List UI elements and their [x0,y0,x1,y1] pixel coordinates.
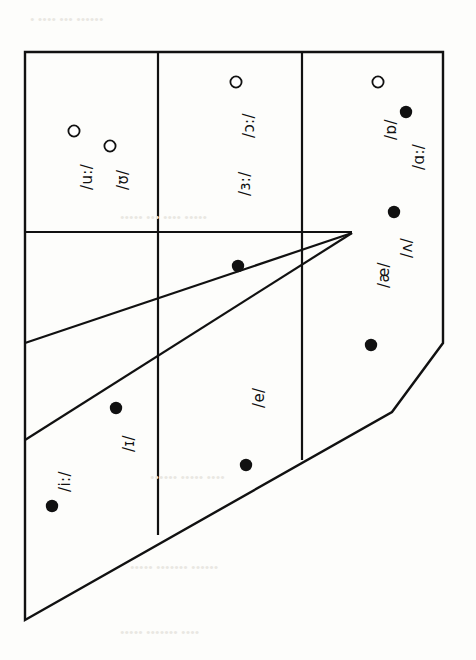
vowel-markers [46,76,412,512]
vowel-label-4: /ɑ:/ [410,144,428,170]
vowel-marker-9 [110,402,122,414]
bleed-text-2: •••••• ••••• •••• [150,470,225,486]
bleed-text-1: ••••• ••• •••• ••••• [120,210,207,226]
vowel-chart-page: /u://ʊ//ɔ://ɒ//ɑ://ʌ//æ//ɜ://e//ɪ//i:/ •… [0,0,476,660]
outline-polygon [25,52,443,620]
vowel-label-0: /u:/ [78,164,96,190]
vowel-marker-4 [400,106,412,118]
vowel-marker-1 [104,140,115,151]
vowel-label-10: /i:/ [56,471,74,492]
vowel-label-6: /æ/ [375,262,393,288]
vowel-marker-11 [232,260,244,272]
vowel-label-2: /ɔ:/ [240,113,258,138]
bleed-text-4: ••••• ••••••• •••• [120,625,199,641]
vowel-label-8: /e/ [250,387,268,408]
bleed-text-3: ••••• ••••••• •••••• [130,560,218,576]
vowel-marker-0 [68,125,79,136]
vowel-label-9: /ɪ/ [120,435,138,452]
vowel-marker-2 [230,76,241,87]
vowel-marker-5 [388,206,400,218]
vowel-label-3: /ɒ/ [382,119,400,140]
vowel-label-1: /ʊ/ [114,169,132,190]
vowel-label-5: /ʌ/ [398,238,416,258]
vowel-marker-8 [240,459,252,471]
vowel-marker-3 [372,76,383,87]
vowel-quadrilateral-svg [0,0,476,660]
quadrilateral-outline [25,52,443,620]
vowel-marker-6 [365,339,377,351]
vowel-marker-10 [46,500,58,512]
vowel-label-7: /ɜ:/ [236,171,254,196]
bleed-text-0: • •••• ••• •••••• [30,12,103,28]
